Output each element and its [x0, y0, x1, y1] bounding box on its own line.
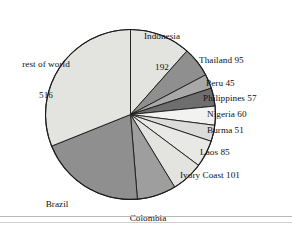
pie-label-indonesia: Indonesia 192: [118, 10, 206, 93]
pie-label-laos: Laos 85: [200, 147, 292, 157]
pie-chart-figure: Indonesia 192 rest of world 516 Thailand…: [0, 0, 292, 228]
pie-label-burma: Burma 51: [207, 125, 292, 135]
pie-label-indonesia-name: Indonesia: [118, 31, 206, 41]
footer-rule-bottom: [0, 222, 292, 223]
pie-label-brazil: Brazil 336: [24, 178, 90, 228]
pie-label-rest-of-world-value: 516: [2, 90, 90, 100]
pie-label-philippines: Philippines 57: [203, 93, 292, 103]
pie-label-ivory-coast: Ivory Coast 101: [180, 170, 292, 180]
footer-rule-top: [0, 216, 292, 217]
pie-label-peru: Peru 45: [206, 78, 292, 88]
pie-label-rest-of-world-name: rest of world: [2, 59, 90, 69]
pie-label-indonesia-value: 192: [118, 62, 206, 72]
pie-label-brazil-name: Brazil: [24, 199, 90, 209]
pie-label-thailand: Thailand 95: [199, 55, 291, 65]
pie-label-rest-of-world: rest of world 516: [2, 38, 90, 121]
pie-label-nigeria: Nigeria 60: [207, 109, 292, 119]
